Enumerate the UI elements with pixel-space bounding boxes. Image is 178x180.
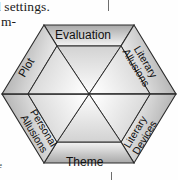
band-theme — [44, 142, 134, 163]
scanned-page: d settings. m- e — [0, 0, 178, 180]
hexagon-diagram: Evaluation Literary Allusions Literary D… — [0, 10, 178, 175]
band-evaluation — [44, 25, 134, 46]
